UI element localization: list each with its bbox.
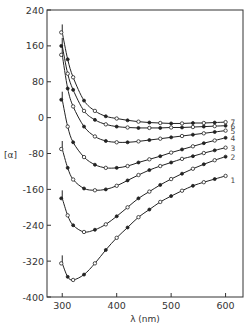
y-tick-label: 160: [26, 40, 44, 51]
plot-frame: [47, 10, 243, 297]
data-point: [191, 155, 194, 158]
curve-label: 3: [231, 144, 236, 153]
y-tick-label: -240: [22, 220, 44, 231]
data-point: [66, 87, 69, 90]
data-point: [170, 136, 173, 139]
data-point: [191, 184, 194, 187]
curve-label: 7: [231, 118, 236, 127]
data-point: [213, 149, 216, 152]
x-axis-title: λ (nm): [130, 314, 160, 324]
data-point: [137, 126, 140, 129]
y-tick-label: 80: [32, 76, 44, 87]
data-point: [60, 98, 63, 101]
curve-2: [62, 157, 225, 233]
data-point: [104, 139, 107, 142]
data-point: [115, 215, 118, 218]
data-point: [202, 163, 205, 166]
data-point: [72, 224, 75, 227]
data-point: [224, 136, 227, 139]
data-point: [159, 137, 162, 140]
data-point: [202, 181, 205, 184]
data-point: [137, 173, 140, 176]
data-point: [191, 125, 194, 128]
data-point: [170, 195, 173, 198]
data-point: [148, 126, 151, 129]
data-point: [159, 126, 162, 129]
data-point: [104, 248, 107, 251]
data-point: [66, 125, 69, 128]
data-point: [137, 161, 140, 164]
data-point: [180, 134, 183, 137]
y-tick-label: -320: [22, 256, 44, 267]
data-point: [126, 179, 129, 182]
data-point: [191, 167, 194, 170]
data-point: [202, 151, 205, 154]
data-point: [213, 159, 216, 162]
data-point: [82, 155, 85, 158]
curve-label: 1: [231, 176, 236, 185]
x-tick-label: 600: [217, 300, 235, 311]
data-point: [66, 214, 69, 217]
data-point: [115, 236, 118, 239]
data-point: [159, 155, 162, 158]
data-point: [137, 140, 140, 143]
data-point: [191, 145, 194, 148]
y-tick-label: 0: [38, 112, 44, 123]
data-point: [66, 72, 69, 75]
data-point: [115, 117, 118, 120]
curve-7: [62, 24, 225, 123]
data-point: [181, 148, 184, 151]
data-point: [148, 121, 151, 124]
data-point: [170, 122, 173, 125]
data-point: [224, 146, 227, 149]
x-axis: 300400500600: [53, 293, 234, 311]
data-point: [191, 133, 194, 136]
data-point: [224, 120, 227, 123]
data-point: [126, 119, 129, 122]
data-point: [71, 105, 74, 108]
data-point: [60, 262, 63, 265]
x-tick-label: 400: [108, 300, 126, 311]
data-point: [60, 147, 63, 150]
data-point: [213, 124, 216, 127]
data-point: [126, 126, 129, 129]
data-point: [148, 139, 151, 142]
data-point: [159, 200, 162, 203]
data-point: [60, 31, 63, 34]
y-tick-label: -160: [22, 184, 44, 195]
data-point: [180, 122, 183, 125]
data-point: [71, 178, 74, 181]
data-point: [83, 273, 86, 276]
data-point: [60, 197, 63, 200]
data-point: [181, 126, 184, 129]
curves: 1234567: [60, 24, 236, 281]
data-point: [83, 125, 86, 128]
data-point: [71, 76, 74, 79]
curve-6: [62, 38, 225, 128]
y-axis-title: [α]: [4, 150, 17, 160]
data-point: [148, 158, 151, 161]
data-point: [60, 44, 63, 47]
data-point: [148, 190, 151, 193]
data-point: [202, 121, 205, 124]
data-point: [104, 166, 107, 169]
data-point: [126, 226, 129, 229]
data-point: [93, 118, 96, 121]
data-point: [126, 141, 129, 144]
data-point: [93, 163, 96, 166]
data-point: [213, 130, 216, 133]
data-point: [137, 197, 140, 200]
data-point: [82, 109, 85, 112]
data-point: [66, 166, 69, 169]
y-tick-label: 240: [26, 5, 44, 16]
data-point: [159, 164, 162, 167]
data-point: [60, 53, 63, 56]
data-point: [213, 178, 216, 181]
chart-canvas: 240160800-80-160-240-320-400 30040050060…: [0, 0, 251, 328]
data-point: [126, 164, 129, 167]
data-point: [104, 115, 107, 118]
data-point: [137, 120, 140, 123]
x-tick-label: 300: [53, 300, 71, 311]
data-point: [115, 166, 118, 169]
data-point: [213, 121, 216, 124]
